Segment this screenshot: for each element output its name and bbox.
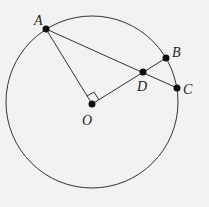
point-o — [89, 101, 96, 108]
label-b: B — [172, 45, 181, 60]
geometry-diagram: A B C D O — [0, 0, 209, 207]
point-c — [174, 85, 181, 92]
segment-ao — [46, 29, 92, 104]
label-a: A — [33, 13, 43, 28]
point-d — [140, 69, 147, 76]
segment-ob — [92, 58, 166, 104]
segment-ac — [46, 29, 177, 88]
label-d: D — [136, 79, 147, 94]
label-c: C — [183, 82, 193, 97]
label-o: O — [82, 113, 92, 128]
point-b — [163, 55, 170, 62]
point-a — [43, 26, 50, 33]
